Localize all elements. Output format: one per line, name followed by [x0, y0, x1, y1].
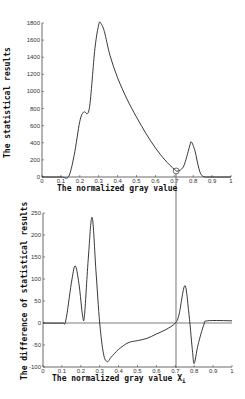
- top-ylabel: The statistical results: [2, 47, 12, 158]
- bottom-ylabel: The difference of statistical results: [19, 202, 29, 380]
- y-tick-label: 0: [38, 320, 42, 326]
- x-tick-label: 0.9: [208, 178, 217, 184]
- y-tick-label: 1000: [27, 88, 41, 94]
- chart-figure: 00.10.20.30.40.50.60.70.80.9102004006008…: [0, 0, 245, 399]
- x-tick-label: 0: [40, 178, 44, 184]
- y-tick-label: 50: [34, 298, 41, 304]
- bottom-plot: 00.10.20.30.40.50.60.70.80.91-100-500501…: [29, 210, 234, 374]
- y-tick-label: 200: [30, 157, 41, 163]
- y-tick-label: 1200: [27, 71, 41, 77]
- y-tick-label: 400: [30, 140, 41, 146]
- y-tick-label: 1600: [27, 37, 41, 43]
- y-tick-label: 600: [30, 123, 41, 129]
- y-tick-label: 1400: [27, 54, 41, 60]
- y-tick-label: 200: [31, 232, 42, 238]
- y-tick-label: 100: [31, 276, 42, 282]
- bottom-xlabel-subscript: i: [182, 377, 186, 384]
- x-tick-label: 0.8: [190, 368, 199, 374]
- x-tick-label: 0.9: [209, 368, 218, 374]
- bottom-xlabel: The normalized gray value Xi: [52, 373, 186, 384]
- data-line: [43, 217, 232, 363]
- top-plot: 00.10.20.30.40.50.60.70.80.9102004006008…: [27, 20, 234, 184]
- y-tick-label: 800: [30, 106, 41, 112]
- x-tick-label: 0: [41, 368, 45, 374]
- x-tick-label: 1: [230, 368, 234, 374]
- y-tick-label: 150: [31, 254, 42, 260]
- y-tick-label: 250: [31, 210, 42, 216]
- y-tick-label: 1800: [27, 20, 41, 26]
- x-tick-label: 1: [229, 178, 233, 184]
- x-tick-label: 0.8: [189, 178, 198, 184]
- y-tick-label: -100: [29, 364, 42, 370]
- y-tick-label: -50: [32, 342, 41, 348]
- data-line: [42, 22, 231, 178]
- top-xlabel: The normalized gray value: [57, 183, 178, 193]
